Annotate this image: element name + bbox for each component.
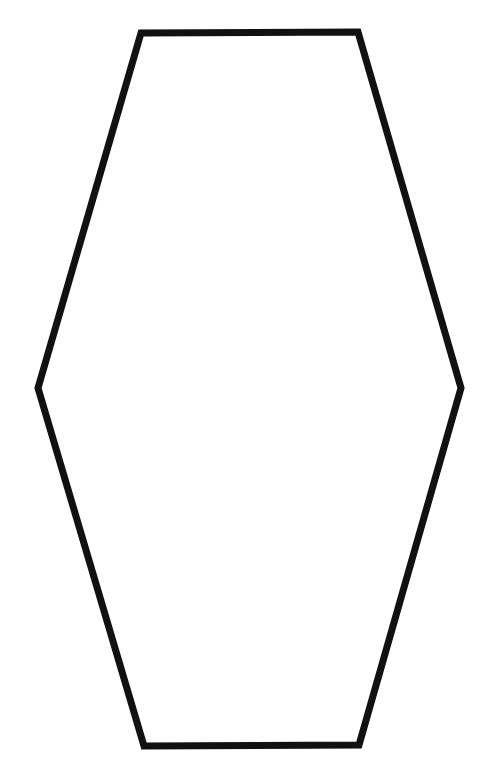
hexagon-figure	[0, 0, 483, 779]
canvas-background	[0, 0, 483, 779]
image-canvas	[0, 0, 483, 779]
